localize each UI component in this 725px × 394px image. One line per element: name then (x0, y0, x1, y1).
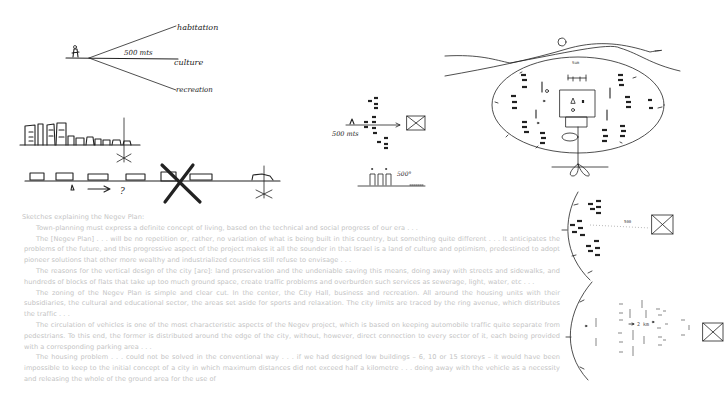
distance-label: 500 (624, 219, 632, 224)
caption-paragraph: The housing problem . . . could not be s… (24, 352, 560, 384)
city-ring-sketch: Sum (440, 30, 725, 180)
hill-label: Sum (572, 60, 580, 65)
fan-label-middle: culture (174, 58, 203, 67)
target-square-icon (652, 215, 673, 234)
question-mark: ? (120, 186, 125, 196)
caption-paragraph: The [Negev Plan] . . . will be no repeti… (24, 234, 560, 266)
view-fan-sketch: habitation 500 mts culture recreation (0, 0, 300, 110)
fan-label-bottom: recreation (176, 86, 213, 94)
caption-paragraph: The reasons for the vertical design of t… (24, 266, 560, 288)
height-label: 500° (397, 170, 411, 177)
document-page: habitation 500 mts culture recreation (0, 0, 725, 394)
fan-label-distance: 500 mts (124, 49, 153, 57)
ring-arc (570, 282, 592, 380)
low-rise-strip (25, 166, 280, 198)
caption-paragraph: The zoning of the Negev Plan is simple a… (24, 288, 560, 320)
target-square-icon (407, 116, 425, 130)
city-hall-block (560, 90, 595, 117)
distance-label: 500 mts (332, 130, 359, 138)
skyline-comparison-sketch: ? (0, 110, 300, 210)
fan-label-top: habitation (177, 23, 218, 32)
ring-arc (568, 192, 590, 280)
distance-label: 2 km (637, 321, 649, 327)
partial-ring-a-sketch: 500 (560, 180, 725, 280)
crossed-out-mark (162, 165, 200, 202)
caption-paragraph: The circulation of vehicles is one of th… (24, 320, 560, 352)
target-square-icon (703, 323, 723, 341)
person-icon (72, 46, 79, 58)
person-icon (71, 185, 74, 190)
sun-icon (558, 38, 566, 46)
housing-grid (596, 300, 689, 356)
housing-clusters (511, 75, 653, 143)
dense-skyline (20, 118, 140, 162)
partial-ring-b-sketch: 2 km (560, 280, 725, 394)
tower-elevation (358, 168, 425, 186)
caption-block: Sketches explaining the Negev Plan: Town… (24, 212, 560, 385)
arrow-right-icon (88, 186, 110, 192)
distance-plan-sketch: 500 mts 500° (300, 80, 450, 200)
caption-paragraph: Town-planning must express a definite co… (24, 223, 560, 234)
person-icon (350, 119, 354, 124)
caption-title: Sketches explaining the Negev Plan: (22, 212, 560, 223)
